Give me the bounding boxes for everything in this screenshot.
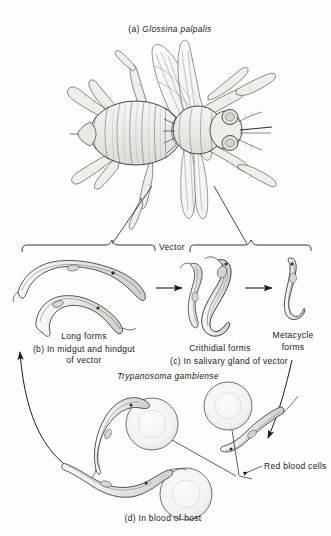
vector-connector-lines (112, 186, 247, 244)
blood-of-host-caption: (d) In blood of host (125, 513, 202, 524)
blood-stage-illustration (62, 382, 298, 520)
parasite-species-label: Trypanosoma gambiense (117, 371, 219, 382)
metacycle-form-1 (284, 258, 304, 320)
metacycle-forms-illustration (284, 258, 304, 320)
fly-proboscis (240, 127, 272, 130)
metacycle-forms-label-line1: Metacycle (273, 330, 314, 341)
fly-head (210, 110, 272, 151)
long-form-1-kinetoplast (111, 271, 114, 274)
long-forms-caption-line2: of vector (66, 355, 101, 366)
crithidial-forms-caption: (c) In salivary gland of vector (170, 356, 288, 367)
vector-label: Vector (159, 242, 185, 253)
blood-trypanosome-2 (62, 464, 173, 498)
figure-title-prefix: (a) (128, 24, 139, 34)
long-forms-illustration (13, 260, 145, 336)
long-forms-label: Long forms (61, 331, 107, 342)
crithidial-forms-label: Crithidial forms (189, 343, 250, 354)
vector-brace-right (190, 240, 311, 252)
arrow-host-to-vector (20, 352, 90, 480)
crithidial-forms-illustration (180, 257, 231, 336)
long-form-1 (18, 260, 145, 300)
arrow-vector-to-host (268, 360, 292, 438)
tsetse-fly-illustration (67, 40, 276, 229)
red-blood-cell-2 (204, 382, 252, 430)
vector-brace-left (22, 240, 155, 252)
long-forms-caption-line1: (b) In midgut and hindgut (33, 344, 135, 355)
lifecycle-diagram (0, 0, 331, 536)
figure-title: (a) Glossina palpalis (128, 24, 211, 35)
fly-abdomen (70, 101, 182, 165)
long-form-2-kinetoplast (96, 306, 99, 309)
metacycle-form-1-nucleus (290, 273, 297, 283)
red-blood-cells-label: Red blood cells (264, 461, 327, 472)
metacycle-forms-label-line2: forms (282, 342, 305, 353)
figure-title-species: Glossina palpalis (142, 24, 211, 34)
figure-page: (a) Glossina palpalis Vector Long forms … (0, 0, 331, 536)
